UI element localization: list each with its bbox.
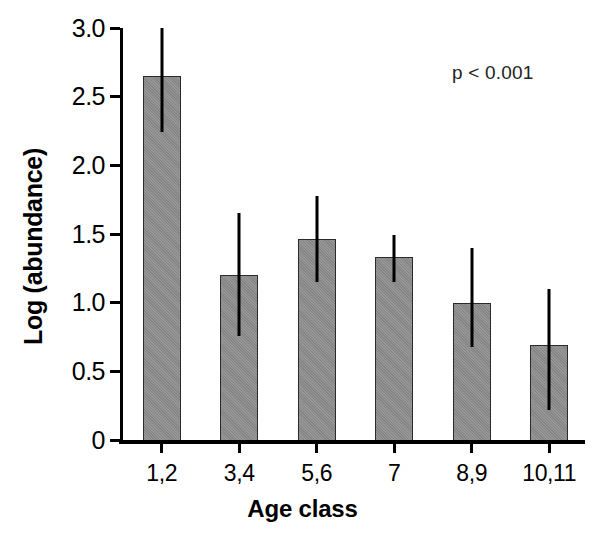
y-axis-tick-label: 2.5 bbox=[72, 82, 105, 111]
y-axis-tick: 0 bbox=[110, 439, 120, 442]
bar-chart-figure: Log (abundance) 00.51.01.52.02.53.0 1,23… bbox=[0, 0, 605, 540]
error-bar bbox=[160, 28, 163, 132]
error-bar bbox=[393, 235, 396, 282]
x-axis-tick bbox=[160, 442, 163, 453]
y-axis-title: Log (abundance) bbox=[19, 97, 48, 397]
y-axis-tick: 2.0 bbox=[110, 164, 120, 167]
y-axis-tick: 2.5 bbox=[110, 95, 120, 98]
x-axis-tick bbox=[315, 442, 318, 453]
p-value-annotation: p < 0.001 bbox=[452, 62, 534, 84]
bar bbox=[375, 257, 413, 440]
y-axis-tick-label: 1.5 bbox=[72, 220, 105, 249]
x-axis-tick-label: 7 bbox=[388, 460, 400, 487]
y-axis-tick-label: 1.0 bbox=[72, 288, 105, 317]
x-axis-line bbox=[119, 440, 585, 444]
error-bar bbox=[470, 248, 473, 347]
error-bar bbox=[548, 289, 551, 410]
y-axis-tick: 1.5 bbox=[110, 233, 120, 236]
y-axis-line bbox=[120, 28, 123, 440]
error-bar bbox=[238, 213, 241, 335]
x-axis-tick bbox=[393, 442, 396, 453]
x-axis-tick bbox=[238, 442, 241, 453]
error-bar bbox=[315, 196, 318, 283]
y-axis-tick-label: 0 bbox=[92, 426, 105, 455]
x-axis-tick-label: 8,9 bbox=[456, 460, 487, 487]
plot-area: 00.51.01.52.02.53.0 1,23,45,678,910,11 bbox=[120, 28, 585, 440]
x-axis-tick-label: 10,11 bbox=[522, 460, 576, 487]
x-axis-tick-label: 1,2 bbox=[146, 460, 177, 487]
y-axis-tick: 1.0 bbox=[110, 301, 120, 304]
x-axis-tick-label: 5,6 bbox=[301, 460, 332, 487]
y-axis-tick: 0.5 bbox=[110, 370, 120, 373]
x-axis-title: Age class bbox=[0, 495, 605, 523]
x-axis-tick-label: 3,4 bbox=[224, 460, 255, 487]
x-axis-tick bbox=[548, 442, 551, 453]
x-axis-tick bbox=[470, 442, 473, 453]
y-axis-tick-label: 3.0 bbox=[72, 14, 105, 43]
y-axis-tick-label: 0.5 bbox=[72, 357, 105, 386]
y-axis-tick-label: 2.0 bbox=[72, 151, 105, 180]
y-axis-tick: 3.0 bbox=[110, 27, 120, 30]
